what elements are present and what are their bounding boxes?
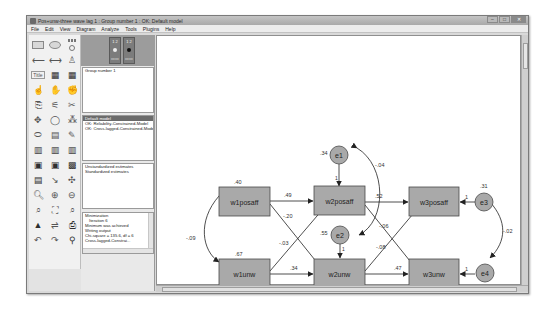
draw-unobserved-variable-icon[interactable]: [47, 38, 63, 52]
svg-text:w2posaff: w2posaff: [325, 198, 354, 206]
node-e3[interactable]: e3: [475, 193, 493, 211]
node-e4[interactable]: e4: [476, 264, 494, 282]
draw-indicator-icon[interactable]: [64, 38, 80, 52]
canvas-horizontal-scrollbar[interactable]: [156, 285, 528, 292]
select-all-icon[interactable]: ✋: [47, 83, 63, 97]
view-input-button[interactable]: 1 2▭▭: [109, 37, 121, 64]
path-diagram: w1posaff w2posaff w3posaff w1unw w2unw w…: [157, 36, 522, 286]
canvas-vertical-scrollbar[interactable]: [521, 35, 528, 285]
add-unique-variable-icon[interactable]: ♙: [64, 53, 80, 67]
menu-plugins[interactable]: Plugins: [143, 26, 159, 32]
coef-w2posaff-w3posaff: .52: [375, 193, 383, 199]
node-w2unw[interactable]: w2unw: [314, 259, 365, 286]
reflect-icon[interactable]: ⁂: [64, 113, 80, 127]
variance-w1unw: .67: [235, 251, 243, 257]
variance-e3: .31: [480, 183, 488, 189]
svg-text:w3posaff: w3posaff: [419, 199, 448, 207]
text-output-icon[interactable]: ▣: [47, 158, 63, 172]
bayesian-icon[interactable]: ▲: [30, 218, 46, 232]
save-icon[interactable]: ▩: [64, 158, 80, 172]
log-horizontal-scrollbar[interactable]: [83, 248, 153, 253]
coef-w1unw-w2unw: .34: [290, 265, 298, 271]
maximize-button[interactable]: □: [499, 16, 510, 23]
magnifier-icon[interactable]: ⌕: [64, 203, 80, 217]
scroll-icon[interactable]: ▤: [47, 128, 63, 142]
undo-icon[interactable]: ↶: [30, 233, 46, 247]
side-panels: 1 2▭▭ 1 2▭▭ Group number 1 Default model…: [81, 35, 155, 291]
minimize-button[interactable]: –: [487, 16, 498, 23]
list-variables-in-model-icon[interactable]: ▦: [47, 68, 63, 82]
erase-icon[interactable]: ✂: [64, 98, 80, 112]
standardized-estimates-item[interactable]: Standardized estimates: [83, 169, 153, 174]
move-parameter-icon[interactable]: ⬭: [30, 128, 46, 142]
fit-to-page-icon[interactable]: ⛶: [47, 203, 63, 217]
deselect-all-icon[interactable]: ✊: [64, 83, 80, 97]
log-vertical-scrollbar[interactable]: [148, 213, 153, 253]
analysis-properties-icon[interactable]: ▥: [47, 143, 63, 157]
covariance-w1posaff-w1unw[interactable]: [204, 196, 219, 262]
close-button[interactable]: ✕: [511, 16, 526, 23]
toolbox: ⟵ ⟷ ♙ Title ▦ ▦ ☝ ✋ ✊ ⎘ ⚟ ✂ ✥ ◯ ⁂ ⬭ ▤ ✎ …: [29, 35, 81, 269]
menu-view[interactable]: View: [60, 26, 71, 32]
zoom-page-icon[interactable]: ⌕: [30, 203, 46, 217]
object-properties-icon[interactable]: ▤: [30, 173, 46, 187]
groups-panel: Group number 1: [82, 67, 154, 113]
models-panel: Default model OK: Reliability-Constraine…: [82, 115, 154, 161]
amos-app-icon: [30, 18, 36, 24]
canvas-vertical-scroll-thumb[interactable]: [523, 43, 528, 69]
path-diagram-canvas[interactable]: w1posaff w2posaff w3posaff w1unw w2unw w…: [156, 35, 521, 285]
window-title: Pos+unw-three wave lag 1 : Group number …: [38, 18, 183, 24]
menu-help[interactable]: Help: [165, 26, 175, 32]
duplicate-icon[interactable]: ⎘: [30, 98, 46, 112]
model-item-cross-lagged[interactable]: OK: Cross-lagged-Constrained-Model: [83, 126, 153, 131]
svg-text:e3: e3: [480, 199, 488, 206]
menu-edit[interactable]: Edit: [45, 26, 54, 32]
preserve-symmetries-icon[interactable]: ✣: [64, 173, 80, 187]
copy-to-clipboard-icon[interactable]: ▣: [30, 158, 46, 172]
canvas-horizontal-scroll-thumb[interactable]: [162, 287, 517, 292]
menu-file[interactable]: File: [31, 26, 39, 32]
draw-path-icon[interactable]: ⟵: [30, 53, 46, 67]
zoom-in-area-icon[interactable]: 🔍︎: [30, 188, 46, 202]
drag-properties-icon[interactable]: ↘: [47, 173, 63, 187]
node-e1[interactable]: e1: [330, 146, 348, 164]
draw-observed-variable-icon[interactable]: [30, 38, 46, 52]
zoom-in-icon[interactable]: ⊕: [47, 188, 63, 202]
node-w2posaff[interactable]: w2posaff: [314, 186, 365, 215]
covariance-e3-e4[interactable]: [490, 202, 503, 258]
title-icon[interactable]: Title: [30, 68, 46, 82]
log-line: Cross-lagged-Constrai...: [83, 238, 153, 243]
view-output-button[interactable]: 1 2▭▭: [123, 37, 135, 64]
node-e2[interactable]: e2: [331, 226, 349, 244]
menu-diagram[interactable]: Diagram: [76, 26, 95, 32]
coef-e2-w2unw: 1: [342, 246, 345, 252]
print-icon[interactable]: ⎙: [64, 218, 80, 232]
menu-tools[interactable]: Tools: [125, 26, 137, 32]
group-item[interactable]: Group number 1: [83, 68, 153, 73]
data-files-icon[interactable]: ▥: [30, 143, 46, 157]
rotate-icon[interactable]: ◯: [47, 113, 63, 127]
move-icon[interactable]: ⚟: [47, 98, 63, 112]
list-variables-in-dataset-icon[interactable]: ▦: [64, 68, 80, 82]
node-w1posaff[interactable]: w1posaff: [219, 187, 270, 216]
menu-bar: File Edit View Diagram Analyze Tools Plu…: [27, 25, 528, 33]
select-one-object-icon[interactable]: ☝: [30, 83, 46, 97]
variance-w1posaff: .40: [234, 179, 242, 185]
coef-w1posaff-w2posaff: .49: [284, 192, 292, 198]
change-shape-icon[interactable]: ✥: [30, 113, 46, 127]
draw-covariance-icon[interactable]: ⟷: [47, 53, 63, 67]
amos-window: Pos+unw-three wave lag 1 : Group number …: [26, 15, 529, 294]
zoom-out-icon[interactable]: ⊖: [64, 188, 80, 202]
window-controls: – □ ✕: [487, 16, 526, 23]
node-w3posaff[interactable]: w3posaff: [409, 187, 459, 216]
touch-up-icon[interactable]: ✎: [64, 128, 80, 142]
toolbox-footer: [29, 269, 81, 291]
multiple-group-icon[interactable]: ⇌: [47, 218, 63, 232]
redo-icon[interactable]: ↷: [47, 233, 63, 247]
specification-search-icon[interactable]: ⚲: [64, 233, 80, 247]
menu-analyze[interactable]: Analyze: [101, 26, 119, 32]
node-w3unw[interactable]: w3unw: [409, 259, 459, 286]
cov-e3-e4: -.02: [503, 228, 512, 234]
node-w1unw[interactable]: w1unw: [219, 259, 270, 286]
calculate-estimates-icon[interactable]: ▥: [64, 143, 80, 157]
